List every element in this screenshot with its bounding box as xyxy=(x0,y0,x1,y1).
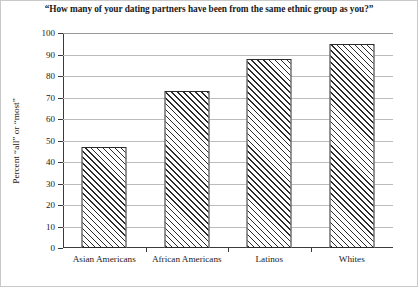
y-axis-tick-label: 40 xyxy=(46,158,55,167)
y-axis-tick-label: 60 xyxy=(46,115,55,124)
y-axis-tick-label: 10 xyxy=(46,222,55,231)
bar-series xyxy=(63,33,393,248)
x-axis-label: Asian Americans xyxy=(63,254,146,266)
bar[interactable] xyxy=(82,147,127,248)
bar-slot xyxy=(63,33,146,248)
y-axis-tick-label: 0 xyxy=(51,244,56,253)
y-axis-tick-label: 90 xyxy=(46,50,55,59)
y-axis-tick-label: 50 xyxy=(46,136,55,145)
bar-slot xyxy=(146,33,229,248)
plot-area: 0102030405060708090100 xyxy=(63,33,393,248)
x-axis-tick xyxy=(146,248,147,252)
y-axis-tick-label: 80 xyxy=(46,72,55,81)
bar[interactable] xyxy=(329,44,374,248)
chart-figure: “How many of your dating partners have b… xyxy=(0,0,418,287)
x-axis-label: Whites xyxy=(311,254,394,266)
y-axis-tick xyxy=(58,248,63,249)
y-axis-title-text: Percent “all” or “most” xyxy=(11,98,21,183)
y-axis-tick-label: 30 xyxy=(46,179,55,188)
x-axis-label: Latinos xyxy=(228,254,311,266)
y-axis-tick-label: 100 xyxy=(42,29,56,38)
y-axis-tick-label: 70 xyxy=(46,93,55,102)
bar-slot xyxy=(228,33,311,248)
y-axis-title: Percent “all” or “most” xyxy=(9,33,23,248)
bar-slot xyxy=(311,33,394,248)
x-axis-tick xyxy=(311,248,312,252)
y-axis-tick-label: 20 xyxy=(46,201,55,210)
bar[interactable] xyxy=(164,91,209,248)
chart-title: “How many of your dating partners have b… xyxy=(1,4,417,14)
x-axis-label: African Americans xyxy=(146,254,229,266)
x-axis-tick xyxy=(228,248,229,252)
bar[interactable] xyxy=(247,59,292,248)
